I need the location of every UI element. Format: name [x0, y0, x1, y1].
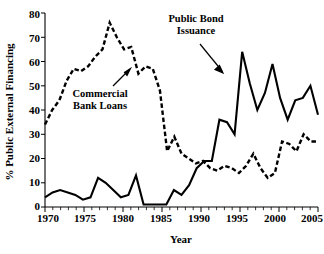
x-tick-label: 1995	[226, 212, 249, 224]
y-tick-label: 10	[29, 176, 41, 188]
annotation-label-line2: Issuance	[177, 25, 216, 36]
annotation-label-line1: Public Bond	[168, 13, 223, 24]
x-tick-label: 2005	[301, 212, 324, 224]
y-axis-title: % Public External Financing	[3, 43, 15, 181]
x-tick-label: 1990	[188, 212, 211, 224]
x-tick-label: 1975	[74, 212, 97, 224]
x-tick-label: 1980	[112, 212, 135, 224]
y-tick-label: 50	[29, 80, 41, 92]
x-tick-label: 1985	[150, 212, 173, 224]
y-tickmarks	[41, 13, 45, 207]
y-tick-label: 0	[35, 200, 41, 212]
annotation-label-line2: Bank Loans	[73, 100, 127, 111]
chart-container: % Public External Financing 80 70 60 50 …	[0, 0, 324, 254]
y-tick-labels: 80 70 60 50 40 30 20 10 0	[29, 8, 41, 213]
annotation-commercial-bank-loans: Commercial Bank Loans	[72, 69, 130, 112]
annotation-arrowhead	[215, 66, 223, 74]
y-tick-label: 20	[29, 152, 41, 164]
y-tick-label: 70	[29, 32, 41, 44]
y-tick-label: 30	[29, 128, 41, 140]
y-tick-label: 80	[29, 8, 41, 20]
annotation-arrowhead	[125, 69, 131, 76]
series-public-bond-issuance	[45, 52, 318, 205]
annotation-label-line1: Commercial	[72, 88, 127, 99]
x-tick-labels: 1970 1975 1980 1985 1990 1995 2000 2005	[37, 212, 324, 224]
x-tick-label: 1970	[37, 212, 60, 224]
annotation-public-bond-issuance: Public Bond Issuance	[168, 13, 223, 73]
x-axis-title: Year	[170, 233, 192, 245]
x-tick-label: 2000	[264, 212, 287, 224]
y-tick-label: 40	[29, 104, 41, 116]
line-chart: % Public External Financing 80 70 60 50 …	[0, 0, 324, 254]
y-tick-label: 60	[29, 56, 41, 68]
